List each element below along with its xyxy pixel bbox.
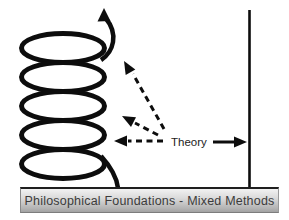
arrowhead-right-icon xyxy=(234,137,247,148)
spiral-loop xyxy=(22,121,105,150)
dashed-arrow-lower xyxy=(114,136,163,147)
spiral-tail xyxy=(101,156,118,188)
arrowhead-left-icon xyxy=(114,136,127,147)
caption-bar: Philosophical Foundations - Mixed Method… xyxy=(20,187,279,213)
theory-solid-arrow xyxy=(213,137,247,148)
spiral-loop xyxy=(22,150,105,179)
dashed-arrow-middle xyxy=(122,116,158,135)
diagram-canvas: Theory Philosophical Foundations - Mixed… xyxy=(0,0,289,220)
spiral-loop xyxy=(22,92,105,121)
arrowhead-left-up-icon xyxy=(122,116,136,127)
arrowhead-upleft-icon xyxy=(124,61,135,75)
spiral-loop xyxy=(22,63,105,92)
arrowhead-up-icon xyxy=(98,8,111,22)
caption-text: Philosophical Foundations - Mixed Method… xyxy=(25,194,275,208)
theory-label: Theory xyxy=(171,136,207,148)
spiral-loop xyxy=(22,34,105,63)
theory-dashed-arrows xyxy=(114,61,164,147)
